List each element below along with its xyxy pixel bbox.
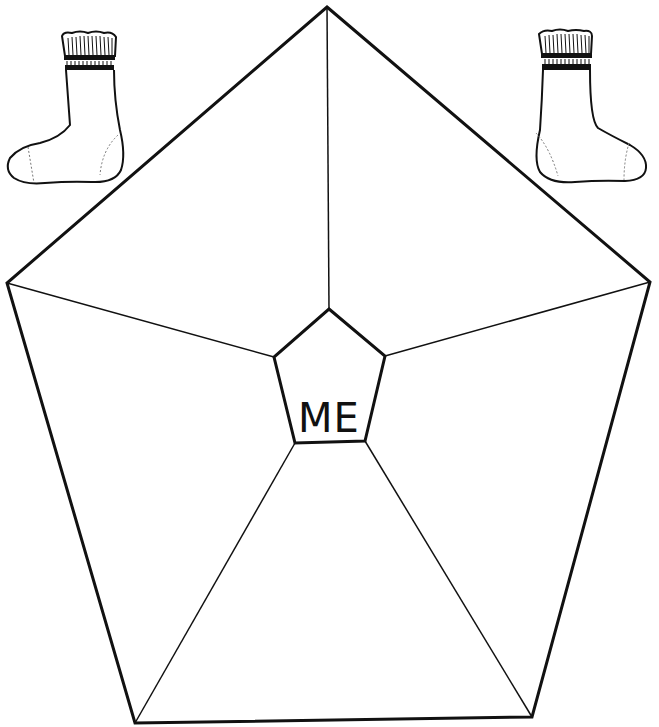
sock-right-icon [536,30,646,183]
center-label: ME [298,395,360,441]
pentagon-worksheet: ME [0,0,659,727]
sock-left-icon [8,32,124,184]
